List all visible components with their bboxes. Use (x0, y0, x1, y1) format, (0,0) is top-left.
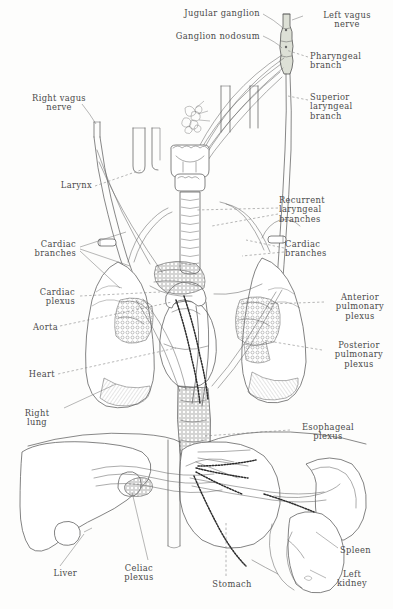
label-liver: Liver (37, 569, 77, 578)
label-spleen: Spleen (340, 546, 388, 555)
larynx-structure (171, 145, 209, 191)
illustration-canvas: .s{fill:none;stroke:#555;stroke-width:.7… (0, 0, 393, 609)
label-pharyngeal-branch: Pharyngeal branch (310, 52, 390, 71)
label-left-kidney: Left kidney (327, 570, 377, 589)
label-celiac-plexus: Celiac plexus (113, 564, 165, 583)
label-anterior-pulmonary-plexus: Anterior pulmonary plexus (326, 293, 393, 321)
label-heart: Heart (15, 370, 55, 379)
label-cardiac-plexus: Cardiac plexus (15, 288, 75, 307)
label-posterior-pulmonary-plexus: Posterior pulmonary plexus (325, 341, 393, 369)
label-larynx: Larynx (44, 181, 92, 190)
label-superior-laryngeal-branch: Superior laryngeal branch (310, 93, 388, 121)
label-aorta: Aorta (16, 323, 58, 332)
label-esophageal-plexus: Esophageal plexus (291, 423, 365, 442)
label-cardiac-branches-right: Cardiac branches (285, 240, 351, 259)
label-cardiac-branches-left: Cardiac branches (14, 240, 76, 259)
label-right-lung: Right lung (16, 409, 58, 428)
label-right-vagus-nerve: Right vagus nerve (18, 94, 100, 113)
label-stomach: Stomach (204, 580, 260, 589)
label-left-vagus-nerve: Left vagus nerve (305, 11, 389, 30)
pharyngeal-plexus-tuft (182, 101, 210, 134)
cardiac-plexus-structure (154, 261, 205, 294)
label-jugular-ganglion: Jugular ganglion (152, 9, 260, 18)
label-recurrent-laryngeal-branches: Recurrent laryngeal branches (279, 196, 363, 224)
label-ganglion-nodosum: Ganglion nodosum (151, 32, 260, 41)
